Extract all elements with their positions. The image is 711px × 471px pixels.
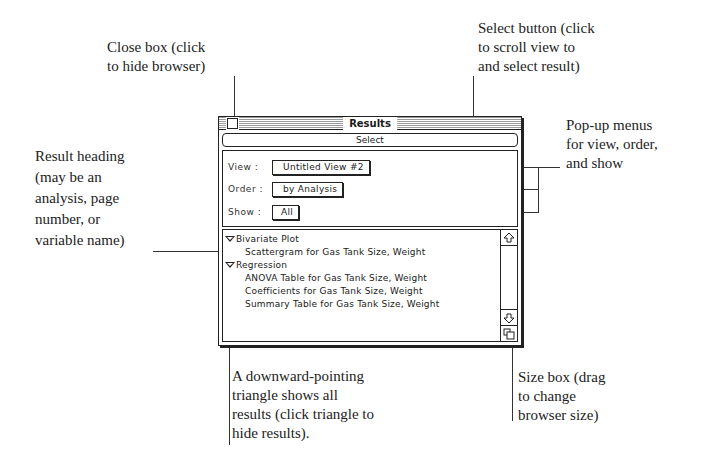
callout-result-heading: Result heading (may be an analysis, page… [35,146,125,251]
title-bar[interactable]: Results [219,117,521,130]
callout-line: browser size) [518,406,605,425]
results-window: Results Select View : Untitled View #2 O… [218,116,522,346]
callout-popup-menus: Pop-up menus for view, order, and show [566,116,658,173]
callout-line: to scroll view to [478,38,595,57]
heading-label: Regression [236,260,287,270]
callout-line: and select result) [478,57,595,76]
result-heading[interactable]: Bivariate Plot [223,233,500,246]
show-label: Show : [228,207,261,217]
callout-line: variable name) [35,230,125,251]
callout-line: for view, order, [566,135,658,154]
select-button[interactable]: Select [222,133,518,147]
callout-size-box: Size box (drag to change browser size) [518,368,605,425]
size-box-leader [512,343,513,421]
callout-select-button: Select button (click to scroll view to a… [478,19,595,76]
callout-line: results (click triangle to [232,405,374,424]
callout-line: Close box (click [107,38,205,57]
callout-line: analysis, page [35,188,125,209]
browser-controls: View : Untitled View #2 Order : by Analy… [222,150,518,227]
view-popup-menu[interactable]: Untitled View #2 [272,160,370,175]
callout-line: Size box (drag [518,368,605,387]
result-item[interactable]: Summary Table for Gas Tank Size, Weight [223,298,500,311]
result-item[interactable]: ANOVA Table for Gas Tank Size, Weight [223,272,500,285]
scroll-track[interactable] [501,246,517,308]
callout-line: to change [518,387,605,406]
callout-line: Select button (click [478,19,595,38]
heading-label: Bivariate Plot [236,234,299,244]
callout-close-box: Close box (click to hide browser) [107,38,205,76]
scroll-down-arrow-icon[interactable] [501,309,517,325]
callout-line: and show [566,154,658,173]
results-list-body: Bivariate Plot Scattergram for Gas Tank … [223,230,500,341]
callout-triangle: A downward-pointing triangle shows all r… [232,367,374,443]
disclosure-triangle-down-icon[interactable] [225,262,235,268]
scroll-up-arrow-icon[interactable] [501,230,517,246]
results-list: Bivariate Plot Scattergram for Gas Tank … [222,229,518,342]
callout-line: triangle shows all [232,386,374,405]
popup-leader-bracket [538,167,539,213]
view-label: View : [228,162,258,172]
callout-line: Pop-up menus [566,116,658,135]
callout-line: number, or [35,209,125,230]
vertical-scrollbar[interactable] [500,230,517,341]
close-box-icon[interactable] [227,118,238,129]
disclosure-triangle-down-icon[interactable] [225,236,235,242]
order-label: Order : [228,184,263,194]
callout-line: hide results). [232,424,374,443]
callout-line: A downward-pointing [232,367,374,386]
callout-line: Result heading [35,146,125,167]
result-heading[interactable]: Regression [223,259,500,272]
order-popup-menu[interactable]: by Analysis [272,182,343,197]
size-box-icon[interactable] [501,325,517,341]
close-box-leader [234,76,235,118]
window-title: Results [343,117,397,130]
callout-line: to hide browser) [107,57,205,76]
result-item[interactable]: Coefficients for Gas Tank Size, Weight [223,285,500,298]
callout-line: (may be an [35,167,125,188]
result-item[interactable]: Scattergram for Gas Tank Size, Weight [223,246,500,259]
show-popup-menu[interactable]: All [272,205,299,220]
